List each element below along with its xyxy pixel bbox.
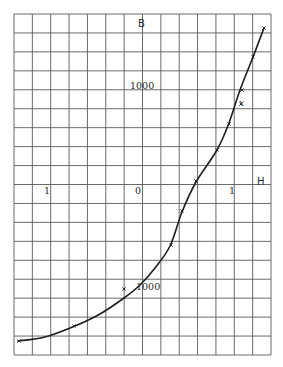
tick-label-origin: 0 [135, 185, 141, 196]
tick-label-h-right: 1 [229, 185, 235, 196]
tick-label-b-upper: 1000 [130, 80, 154, 91]
point-label-x: x [239, 98, 244, 108]
tick-label-h-left: 1 [44, 185, 50, 196]
background [0, 0, 283, 367]
bh-curve-diagram: B 1000 H 1 0 1 1000 x [0, 0, 283, 367]
tick-label-b-lower: 1000 [136, 281, 160, 292]
axis-label-h: H [257, 176, 265, 187]
axis-label-b: B [138, 18, 145, 29]
